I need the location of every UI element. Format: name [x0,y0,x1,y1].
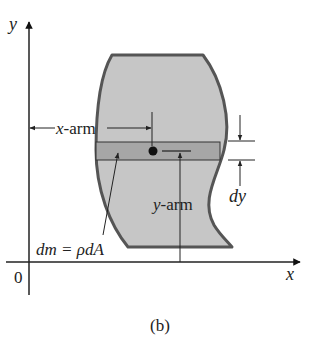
figure-caption: (b) [150,316,170,335]
center-of-mass-diagram: y x 0 x-arm y-arm dy dm = ρdA (b) [0,0,318,345]
origin-label: 0 [14,268,23,287]
dy-label: dy [229,186,246,206]
y-axis-label: y [7,14,17,34]
dm-equation-label: dm = ρdA [36,240,104,259]
x-arm-label: x-arm [55,119,96,138]
mass-element-strip [96,142,220,160]
y-arm-label: y-arm [151,195,193,214]
x-axis-label: x [285,264,294,284]
centroid-dot [149,147,158,156]
